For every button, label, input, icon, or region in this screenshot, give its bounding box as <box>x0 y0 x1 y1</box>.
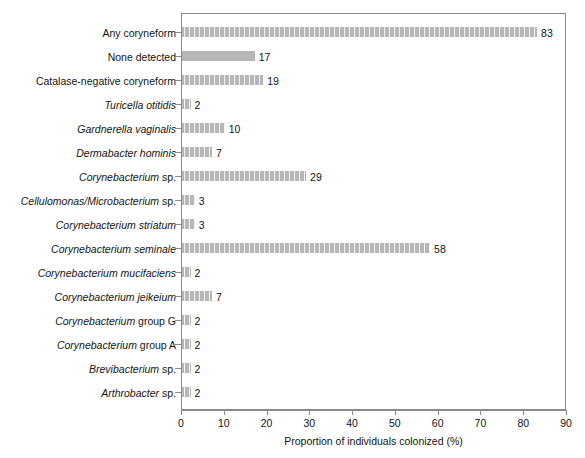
bar <box>182 51 255 61</box>
bar-value-label: 2 <box>195 267 201 279</box>
bar <box>182 363 191 373</box>
bar-row: Corynebacterium jeikeium7 <box>0 285 585 309</box>
bar-value-label: 10 <box>229 123 241 135</box>
category-label: Catalase-negative coryneform <box>0 75 176 87</box>
y-axis-tick <box>175 224 181 225</box>
bar <box>182 315 191 325</box>
category-label: Corynebacterium jeikeium <box>0 291 176 303</box>
bar <box>182 339 191 349</box>
y-axis-tick <box>175 32 181 33</box>
bar <box>182 195 195 205</box>
bar <box>182 387 191 397</box>
x-axis-tick-label: 60 <box>418 417 458 429</box>
category-label-italic: Cellulomonas/Microbacterium <box>21 195 159 207</box>
bar-row: Corynebacterium group A2 <box>0 333 585 357</box>
bar-value-label: 2 <box>195 99 201 111</box>
y-axis-tick <box>175 248 181 249</box>
x-axis-tick-label: 0 <box>161 417 201 429</box>
y-axis-tick <box>175 296 181 297</box>
x-axis-tick-label: 40 <box>332 417 372 429</box>
bar-rows-container: Any coryneform83None detected17Catalase-… <box>0 13 585 410</box>
y-axis-tick <box>175 104 181 105</box>
bar-row: Brevibacterium sp.2 <box>0 357 585 381</box>
category-label: Corynebacterium seminale <box>0 243 176 255</box>
x-axis-tick-label: 10 <box>204 417 244 429</box>
bar-value-label: 7 <box>216 291 222 303</box>
bar <box>182 75 263 85</box>
x-axis-tick <box>480 410 481 415</box>
y-axis-tick <box>175 80 181 81</box>
bar <box>182 243 430 253</box>
bar-row: Catalase-negative coryneform19 <box>0 69 585 93</box>
y-axis-tick <box>175 128 181 129</box>
category-label-upright: sp. <box>159 171 176 183</box>
category-label: Any coryneform <box>0 27 176 39</box>
bar-value-label: 2 <box>195 363 201 375</box>
bar-value-label: 7 <box>216 147 222 159</box>
bar-row: Gardnerella vaginalis10 <box>0 117 585 141</box>
y-axis-tick <box>175 368 181 369</box>
category-label: Corynebacterium mucifaciens <box>0 267 176 279</box>
y-axis-tick <box>175 152 181 153</box>
x-axis-tick-label: 50 <box>375 417 415 429</box>
bar-row: Arthrobacter sp.2 <box>0 381 585 405</box>
x-axis-title: Proportion of individuals colonized (%) <box>181 435 566 447</box>
category-label-italic: Corynebacterium <box>55 315 135 327</box>
x-axis-tick <box>224 410 225 415</box>
category-label-upright: Catalase-negative coryneform <box>36 75 176 87</box>
bar-row: Corynebacterium seminale58 <box>0 237 585 261</box>
category-label-upright: sp. <box>159 387 176 399</box>
category-label-italic: Arthrobacter <box>101 387 159 399</box>
category-label: Brevibacterium sp. <box>0 363 176 375</box>
bar-row: Corynebacterium sp.29 <box>0 165 585 189</box>
bar-value-label: 29 <box>310 171 322 183</box>
bar-row: Corynebacterium striatum3 <box>0 213 585 237</box>
category-label: Corynebacterium striatum <box>0 219 176 231</box>
x-axis-tick <box>181 410 182 415</box>
category-label: Gardnerella vaginalis <box>0 123 176 135</box>
bar-value-label: 58 <box>434 243 446 255</box>
category-label: Arthrobacter sp. <box>0 387 176 399</box>
y-axis-tick <box>175 344 181 345</box>
bar <box>182 99 191 109</box>
y-axis-tick <box>175 176 181 177</box>
y-axis-tick <box>175 320 181 321</box>
category-label-italic: Corynebacterium seminale <box>51 243 176 255</box>
x-axis-tick-label: 80 <box>503 417 543 429</box>
bar-value-label: 2 <box>195 315 201 327</box>
category-label-italic: Dermabacter hominis <box>76 147 176 159</box>
bar <box>182 123 225 133</box>
bar-row: Dermabacter hominis7 <box>0 141 585 165</box>
x-axis-tick <box>352 410 353 415</box>
y-axis-tick <box>175 200 181 201</box>
bar-value-label: 3 <box>199 195 205 207</box>
bar-value-label: 19 <box>267 75 279 87</box>
bar-row: Cellulomonas/Microbacterium sp.3 <box>0 189 585 213</box>
x-axis-tick <box>523 410 524 415</box>
category-label-italic: Brevibacterium <box>89 363 159 375</box>
category-label-italic: Corynebacterium <box>79 171 159 183</box>
x-axis-tick-label: 20 <box>247 417 287 429</box>
x-axis-tick <box>438 410 439 415</box>
category-label: Corynebacterium group A <box>0 339 176 351</box>
y-axis-tick <box>175 392 181 393</box>
category-label-italic: Corynebacterium <box>57 339 137 351</box>
x-axis-tick <box>267 410 268 415</box>
bar-chart-figure: Any coryneform83None detected17Catalase-… <box>0 0 585 458</box>
category-label: None detected <box>0 51 176 63</box>
bar <box>182 219 195 229</box>
x-axis-tick-label: 90 <box>546 417 585 429</box>
y-axis-tick <box>175 272 181 273</box>
bar <box>182 291 212 301</box>
category-label-upright: None detected <box>108 51 176 63</box>
category-label: Corynebacterium group G <box>0 315 176 327</box>
category-label: Dermabacter hominis <box>0 147 176 159</box>
category-label-italic: Corynebacterium jeikeium <box>55 291 176 303</box>
x-axis-tick <box>566 410 567 415</box>
category-label-upright: sp. <box>159 363 176 375</box>
bar-row: None detected17 <box>0 45 585 69</box>
bar-row: Corynebacterium group G2 <box>0 309 585 333</box>
category-label-italic: Turicella otitidis <box>104 99 176 111</box>
bar-value-label: 83 <box>541 27 553 39</box>
bar <box>182 171 306 181</box>
